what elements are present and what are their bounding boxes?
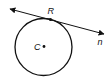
label-c: C: [34, 42, 41, 52]
diagram-canvas: R C n: [0, 0, 108, 79]
tangent-line-n: [10, 9, 104, 34]
label-n: n: [98, 37, 103, 47]
label-r: R: [48, 6, 55, 16]
point-r: [49, 18, 52, 21]
center-point-c: [43, 45, 46, 48]
